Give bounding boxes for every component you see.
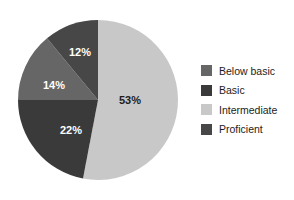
pie-slices xyxy=(18,20,178,180)
pie-chart: 53% 22% 14% 12% Below basic Basic Interm… xyxy=(0,0,294,200)
slice-label-proficient: 12% xyxy=(69,46,91,58)
chart-legend: Below basic Basic Intermediate Proficien… xyxy=(201,61,294,139)
legend-label-proficient: Proficient xyxy=(219,124,263,135)
legend-label-intermediate: Intermediate xyxy=(219,105,277,116)
slice-label-basic: 22% xyxy=(60,124,82,136)
slice-label-intermediate: 53% xyxy=(119,94,141,106)
legend-swatch-intermediate xyxy=(201,104,212,115)
legend-item-proficient[interactable]: Proficient xyxy=(201,120,294,140)
legend-item-basic[interactable]: Basic xyxy=(201,81,294,101)
legend-swatch-basic xyxy=(201,85,212,96)
legend-label-basic: Basic xyxy=(219,85,245,96)
legend-label-below-basic: Below basic xyxy=(219,66,275,77)
legend-item-intermediate[interactable]: Intermediate xyxy=(201,100,294,120)
legend-swatch-proficient xyxy=(201,124,212,135)
slice-label-below-basic: 14% xyxy=(43,79,65,91)
legend-swatch-below-basic xyxy=(201,65,212,76)
legend-item-below-basic[interactable]: Below basic xyxy=(201,61,294,81)
